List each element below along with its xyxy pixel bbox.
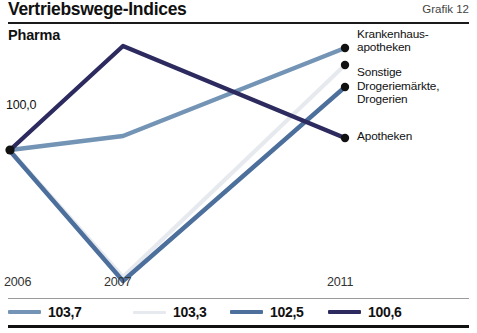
chart-figure: Vertriebswege-Indices Grafik 12 Pharma 1… <box>0 0 477 333</box>
baseline-value-label: 100,0 <box>6 98 36 112</box>
series-endpoint-dot <box>341 134 349 142</box>
series-line <box>10 48 345 150</box>
x-axis-label-2007: 2007 <box>104 275 131 289</box>
legend-swatch-icon <box>230 310 263 314</box>
series-label-drogeriemaerkte: Drogeriemärkte, Drogerien <box>357 80 439 106</box>
x-axis-label-2011: 2011 <box>327 275 353 289</box>
series-label-sonstige: Sonstige <box>357 66 402 79</box>
legend-divider <box>8 298 469 299</box>
legend-item[interactable]: 103,7 <box>8 303 82 321</box>
series-endpoint-dot <box>341 83 349 91</box>
footer-divider <box>8 325 469 328</box>
legend-item[interactable]: 102,5 <box>230 303 304 321</box>
legend-swatch-icon <box>133 311 166 314</box>
chart-legend: 103,7 103,3 102,5 100,6 <box>8 303 469 323</box>
x-axis-label-2006: 2006 <box>4 275 31 289</box>
series-label-apotheken: Apotheken <box>357 130 412 143</box>
series-endpoint-dot <box>341 44 349 52</box>
series-endpoint-dot <box>341 61 349 69</box>
legend-swatch-icon <box>328 310 361 314</box>
series-origin-dot <box>5 145 14 154</box>
series-label-krankenhausapotheken: Krankenhaus- apotheken <box>357 28 429 54</box>
legend-value: 103,3 <box>173 304 207 320</box>
series-line <box>10 46 345 150</box>
legend-value: 102,5 <box>270 304 304 320</box>
series-line <box>10 65 345 277</box>
x-axis-labels: 2006 2007 2011 <box>0 275 477 295</box>
legend-value: 103,7 <box>48 304 82 320</box>
legend-value: 100,6 <box>368 304 402 320</box>
legend-swatch-icon <box>8 310 41 314</box>
legend-item[interactable]: 103,3 <box>133 303 207 321</box>
legend-item[interactable]: 100,6 <box>328 303 402 321</box>
